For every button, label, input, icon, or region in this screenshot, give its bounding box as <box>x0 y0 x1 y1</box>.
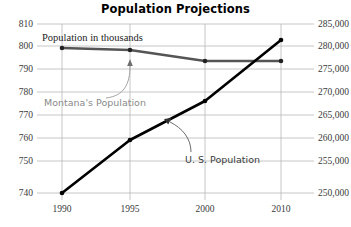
us-line <box>62 40 281 193</box>
us-point-2010 <box>279 38 284 43</box>
right-tick-285000: 285,000 <box>318 19 349 29</box>
montana-point-1990 <box>60 46 65 51</box>
right-tick-265000: 265,000 <box>318 110 349 120</box>
montana-point-1995 <box>128 48 133 53</box>
right-axis-tick-labels: 285,000 280,000 275,000 270,000 265,000 … <box>318 19 349 198</box>
left-tick-770: 770 <box>19 110 34 120</box>
x-axis-tick-labels: 1990 1995 2000 2010 <box>53 204 291 214</box>
montana-point-2010 <box>279 59 284 64</box>
x-tick-2000: 2000 <box>196 204 215 214</box>
right-tick-250000: 250,000 <box>318 188 349 198</box>
gridlines-vertical <box>62 24 281 200</box>
x-tick-1995: 1995 <box>121 204 140 214</box>
left-tick-740: 740 <box>19 188 34 198</box>
x-tick-2010: 2010 <box>272 204 291 214</box>
annotation-us-population-group: U. S. Population <box>164 118 260 165</box>
right-tick-280000: 280,000 <box>318 41 349 51</box>
left-tick-760: 760 <box>19 133 34 143</box>
x-tick-1990: 1990 <box>53 204 72 214</box>
left-tick-750: 750 <box>19 156 34 166</box>
left-tick-800: 800 <box>19 41 34 51</box>
annotation-us-population: U. S. Population <box>185 154 260 165</box>
left-tick-810: 810 <box>19 19 34 29</box>
left-axis-tick-labels: 810 800 790 780 770 760 750 740 <box>19 19 34 198</box>
right-tick-255000: 255,000 <box>318 156 349 166</box>
us-point-1990 <box>60 191 65 196</box>
right-tick-260000: 260,000 <box>318 133 349 143</box>
right-tick-270000: 270,000 <box>318 87 349 97</box>
population-projections-chart: Population Projections 810 800 790 780 <box>0 0 351 227</box>
montana-leader-arrowhead <box>127 59 133 66</box>
us-leader-line <box>170 122 191 152</box>
montana-leader-line <box>106 66 130 98</box>
left-tick-790: 790 <box>19 64 34 74</box>
series-montana-population <box>60 46 284 64</box>
annotation-population-in-thousands: Population in thousands <box>42 32 143 43</box>
us-point-1995 <box>128 138 133 143</box>
montana-point-2000 <box>203 59 208 64</box>
right-tick-275000: 275,000 <box>318 64 349 74</box>
annotation-montana-population: Montana's Population <box>44 97 146 108</box>
chart-plot-area: 810 800 790 780 770 760 750 740 285,000 … <box>0 0 351 227</box>
montana-line <box>62 48 281 61</box>
us-point-2000 <box>203 99 208 104</box>
left-tick-780: 780 <box>19 87 34 97</box>
annotation-montana-population-group: Montana's Population <box>44 59 146 108</box>
